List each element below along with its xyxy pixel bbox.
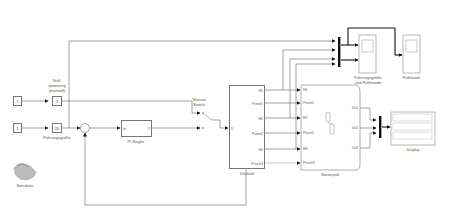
steuerpult-in-h3: H3 — [303, 147, 307, 151]
gain-value: 20 — [53, 126, 61, 131]
drehteil-out-h2: H2 — [259, 117, 263, 121]
steuerpult-label: Steuerpult — [321, 173, 339, 177]
pi-out-port: Y — [148, 127, 150, 131]
scope-fuellstand[interactable] — [403, 35, 420, 73]
drehteil-label: Drehteil — [240, 172, 254, 176]
diagram-canvas — [0, 0, 450, 223]
gain-stellspannung-label-3: (manuell) — [49, 89, 66, 93]
drehteil-out-h3: H3 — [259, 148, 263, 152]
drehteil-out-pvent1: Pvent1 — [252, 102, 263, 106]
gain-stellspannung-block[interactable]: 1 — [52, 96, 62, 106]
steuerpult-in-h1: H1 — [303, 88, 307, 92]
steuerpult-block[interactable]: H1 Pvent1 H2 Pvent2 H3 Pzuch3 Us1 Us2 Us… — [301, 85, 360, 170]
drehteil-block[interactable]: U H1 Pvent1 H2 Pvent2 H3 Pzuch3 — [229, 85, 265, 169]
gain-value: 1 — [53, 99, 61, 104]
display-label: Display — [406, 148, 419, 152]
display-block[interactable] — [391, 112, 435, 145]
constant-value: 1 — [14, 99, 21, 104]
steuerpult-out-us1: Us1 — [352, 106, 358, 110]
simulink-library-icon[interactable] — [12, 160, 38, 182]
switch-label-2: Switch — [193, 103, 205, 107]
steuerpult-in-pvent2: Pvent2 — [303, 131, 314, 135]
steuerpult-out-us2: Us2 — [352, 126, 358, 130]
drehteil-out-pvent2: Pvent2 — [252, 132, 263, 136]
constant-block-2[interactable]: 1 — [13, 123, 22, 133]
pi-in-port: In — [123, 127, 126, 131]
constant-value: 1 — [14, 126, 21, 131]
drehteil-in-port: U — [231, 127, 234, 131]
drehteil-out-pzuch3: Pzuch3 — [251, 162, 263, 166]
gain-fuehrungsgroesse-label: Führungsgröße — [43, 136, 70, 140]
pi-regler-label: PI-Regler — [128, 140, 145, 144]
constant-block-1[interactable]: 1 — [13, 96, 22, 106]
scope2-label: Füllstand~ — [403, 76, 422, 80]
drehteil-out-h1: H1 — [259, 89, 263, 93]
steuerpult-in-pzuch3: Pzuch3 — [303, 161, 315, 165]
pi-regler-block[interactable]: In Y — [121, 120, 152, 137]
steuerpult-in-pvent1: Pvent1 — [303, 101, 314, 105]
steuerpult-out-us3: Us3 — [352, 146, 358, 150]
scope1-label-2: und Füllstände — [355, 81, 381, 85]
simulator-label: Simulator — [17, 184, 34, 188]
steuerpult-in-h2: H2 — [303, 116, 307, 120]
gain-fuehrungsgroesse-block[interactable]: 20 — [52, 123, 62, 133]
scope-fuehrungsgroesse[interactable] — [359, 35, 376, 73]
manual-switch[interactable] — [200, 110, 213, 130]
